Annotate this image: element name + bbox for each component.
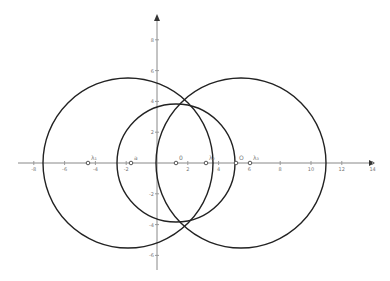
point-marker (174, 161, 178, 165)
point-label: λ₁ (91, 154, 98, 161)
point-marker (129, 161, 133, 165)
point-marker (234, 161, 238, 165)
x-tick-label: -2 (124, 166, 129, 172)
y-tick-label: -6 (149, 252, 154, 258)
point-label: λ₂ (209, 154, 216, 161)
point-label: O (239, 154, 244, 161)
x-tick-label: 8 (279, 166, 282, 172)
y-tick-label: 8 (151, 37, 154, 43)
y-tick-label: -4 (149, 222, 154, 228)
x-tick-label: 2 (186, 166, 189, 172)
axes (18, 14, 375, 270)
point-label: 0 (179, 154, 183, 161)
x-tick-label: 4 (217, 166, 220, 172)
x-tick-label: -4 (93, 166, 98, 172)
x-tick-label: 12 (339, 166, 345, 172)
y-tick-label: 2 (151, 129, 154, 135)
point-marker (86, 161, 90, 165)
point-label: λ₃ (253, 154, 260, 161)
y-tick-label: 4 (151, 98, 154, 104)
x-tick-label: -6 (62, 166, 67, 172)
point-marker (204, 161, 208, 165)
point-label: a (134, 154, 138, 161)
y-axis-arrow-icon (154, 14, 160, 21)
x-tick-label: -8 (31, 166, 36, 172)
point-marker (248, 161, 252, 165)
y-tick-label: -2 (149, 191, 154, 197)
x-tick-label: 14 (369, 166, 375, 172)
coordinate-plot: -8-6-4-22468101214 8642-2-4-6 λ₁a0λ₂Oλ₃ (0, 0, 390, 281)
x-tick-label: 6 (248, 166, 251, 172)
x-tick-label: 10 (308, 166, 314, 172)
y-tick-label: 6 (151, 68, 154, 74)
